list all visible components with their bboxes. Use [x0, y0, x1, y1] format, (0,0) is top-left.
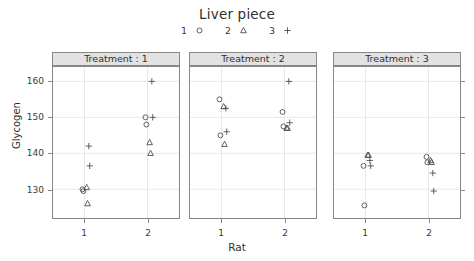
plus-icon: [282, 25, 293, 36]
x-tickmark: [365, 219, 366, 223]
y-axis-label: Glycogen: [11, 86, 22, 166]
legend-label: 3: [269, 25, 275, 36]
gridlines: [190, 67, 316, 218]
panel-strip-2: Treatment : 2: [189, 52, 317, 66]
panel-1: [52, 66, 180, 219]
data-point-plus: [430, 170, 436, 176]
panel-3: [333, 66, 461, 219]
data-point-plus: [149, 78, 155, 84]
chart-title: Liver piece: [0, 6, 474, 22]
legend-item-3: 3: [269, 25, 293, 36]
x-tick-label: 2: [278, 228, 292, 238]
panel-canvas: [190, 67, 316, 218]
x-tickmark: [84, 219, 85, 223]
legend-label: 1: [181, 25, 187, 36]
x-tick-label: 2: [141, 228, 155, 238]
circle-icon: [194, 25, 205, 36]
y-tickmark: [48, 153, 52, 154]
triangle-glyph: [241, 27, 247, 32]
data-point-circle: [218, 133, 223, 138]
data-point-triangle: [222, 141, 228, 146]
y-tickmark-right: [461, 190, 465, 191]
panel-strip-1: Treatment : 1: [52, 52, 180, 66]
data-point-plus: [224, 129, 230, 135]
y-tickmark: [48, 117, 52, 118]
data-point-plus: [368, 163, 374, 169]
x-tickmark: [285, 219, 286, 223]
panel-canvas: [334, 67, 460, 218]
y-tickmark-right: [461, 81, 465, 82]
panel-strip-3: Treatment : 3: [333, 52, 461, 66]
gridlines: [334, 67, 460, 218]
data-point-triangle: [85, 201, 91, 206]
data-point-plus: [223, 105, 229, 111]
y-tick-label: 130: [22, 185, 44, 195]
x-tickmark: [148, 219, 149, 223]
y-tickmark-right: [461, 117, 465, 118]
y-tick-label: 150: [22, 112, 44, 122]
x-tickmark: [429, 219, 430, 223]
x-tick-label: 2: [422, 228, 436, 238]
y-tickmark: [48, 81, 52, 82]
x-tick-label: 1: [214, 228, 228, 238]
y-tick-label: 140: [22, 148, 44, 158]
legend: 123: [0, 25, 474, 36]
data-point-circle: [144, 122, 149, 127]
data-points: [217, 78, 293, 146]
data-point-circle: [362, 203, 367, 208]
data-point-plus: [150, 114, 156, 120]
data-point-plus: [367, 157, 373, 163]
gridlines: [53, 67, 179, 218]
y-tick-label: 160: [22, 76, 44, 86]
x-tickmark: [221, 219, 222, 223]
x-tick-label: 1: [77, 228, 91, 238]
data-point-plus: [286, 78, 292, 84]
triangle-icon: [238, 25, 249, 36]
data-point-plus: [87, 163, 93, 169]
data-points: [361, 152, 437, 208]
plus-glyph: [284, 27, 290, 33]
trellis-scatter-plot: Liver piece 123 Glycogen Rat Treatment :…: [0, 0, 474, 261]
legend-item-2: 2: [225, 25, 249, 36]
x-axis-label: Rat: [0, 241, 474, 253]
y-tickmark-right: [461, 153, 465, 154]
circle-glyph: [197, 28, 202, 33]
legend-item-1: 1: [181, 25, 205, 36]
x-tick-label: 1: [358, 228, 372, 238]
data-points: [80, 78, 156, 206]
legend-label: 2: [225, 25, 231, 36]
panel-2: [189, 66, 317, 219]
data-point-plus: [86, 143, 92, 149]
y-tickmark: [48, 190, 52, 191]
panel-canvas: [53, 67, 179, 218]
